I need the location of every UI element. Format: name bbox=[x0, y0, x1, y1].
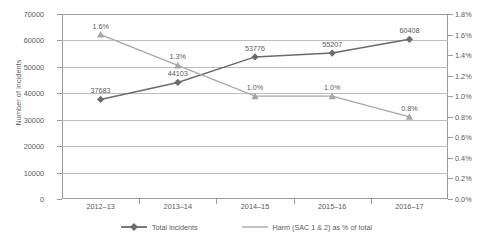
y-axis-tick-label: 0 bbox=[0, 195, 44, 204]
x-axis-tick-label: 2012–13 bbox=[61, 202, 141, 211]
data-point-label: 1.6% bbox=[92, 22, 108, 31]
x-axis-tick-mark bbox=[294, 199, 295, 204]
x-axis-tick-mark bbox=[371, 199, 372, 204]
y-axis-tick-label: 30000 bbox=[0, 115, 44, 124]
series-marker bbox=[97, 31, 104, 38]
data-point-label: 1.3% bbox=[170, 52, 186, 61]
series-marker bbox=[97, 96, 104, 103]
y-axis-tick-label: 50000 bbox=[0, 62, 44, 71]
x-axis-tick-label: 2016–17 bbox=[369, 202, 449, 211]
y2-axis-tick-label: 0.2% bbox=[455, 174, 493, 183]
y-axis-tick-label: 20000 bbox=[0, 142, 44, 151]
y2-axis-tick-mark bbox=[448, 76, 453, 77]
series-marker bbox=[251, 53, 258, 60]
y2-axis-tick-mark bbox=[448, 178, 453, 179]
data-point-label: 60408 bbox=[399, 26, 419, 35]
x-axis-tick-label: 2015–16 bbox=[292, 202, 372, 211]
y2-axis-tick-label: 1.2% bbox=[455, 71, 493, 80]
series-marker bbox=[174, 79, 181, 86]
y2-axis-tick-label: 1.6% bbox=[455, 30, 493, 39]
series-marker bbox=[174, 62, 181, 69]
y2-axis-tick-label: 0.8% bbox=[455, 112, 493, 121]
data-point-label: 1.0% bbox=[247, 83, 263, 92]
y-axis-tick-mark bbox=[57, 199, 62, 200]
legend-line-icon bbox=[242, 222, 268, 232]
y2-axis-tick-mark bbox=[448, 96, 453, 97]
series-layer bbox=[62, 14, 448, 199]
y-axis-tick-label: 60000 bbox=[0, 36, 44, 45]
y2-axis-tick-mark bbox=[448, 35, 453, 36]
y2-axis-tick-label: 0.4% bbox=[455, 153, 493, 162]
x-axis-tick-mark bbox=[216, 199, 217, 204]
y2-axis-tick-label: 0.0% bbox=[455, 195, 493, 204]
y2-axis-tick-label: 0.6% bbox=[455, 133, 493, 142]
x-axis-tick-mark bbox=[139, 199, 140, 204]
data-point-label: 44103 bbox=[168, 69, 188, 78]
y2-axis-tick-label: 1.4% bbox=[455, 51, 493, 60]
y2-axis-tick-label: 1.0% bbox=[455, 92, 493, 101]
y2-axis-tick-label: 1.8% bbox=[455, 10, 493, 19]
legend-item[interactable]: Harm (SAC 1 & 2) as % of total bbox=[242, 222, 372, 232]
series-marker bbox=[329, 49, 336, 56]
chart-container: Number of incidents 01000020000300004000… bbox=[0, 0, 493, 243]
series-marker bbox=[406, 36, 413, 43]
data-point-label: 53776 bbox=[245, 44, 265, 53]
y2-axis-tick-mark bbox=[448, 14, 453, 15]
y-axis-tick-label: 40000 bbox=[0, 89, 44, 98]
data-point-label: 37683 bbox=[91, 86, 111, 95]
y2-axis-tick-mark bbox=[448, 117, 453, 118]
data-point-label: 1.0% bbox=[324, 83, 340, 92]
x-axis-tick-label: 2013–14 bbox=[138, 202, 218, 211]
legend-item[interactable]: Total incidents bbox=[121, 222, 198, 232]
chart-legend: Total incidentsHarm (SAC 1 & 2) as % of … bbox=[0, 222, 493, 232]
legend-label: Harm (SAC 1 & 2) as % of total bbox=[273, 223, 372, 232]
y-axis-tick-label: 70000 bbox=[0, 10, 44, 19]
y-axis-tick-label: 10000 bbox=[0, 168, 44, 177]
x-axis-tick-label: 2014–15 bbox=[215, 202, 295, 211]
y2-axis-tick-mark bbox=[448, 137, 453, 138]
data-point-label: 55207 bbox=[322, 40, 342, 49]
y2-axis-tick-mark bbox=[448, 199, 453, 200]
data-point-label: 0.8% bbox=[401, 104, 417, 113]
legend-label: Total incidents bbox=[152, 223, 198, 232]
y2-axis-tick-mark bbox=[448, 55, 453, 56]
y2-axis-tick-mark bbox=[448, 158, 453, 159]
legend-line-diamond-icon bbox=[121, 222, 147, 232]
